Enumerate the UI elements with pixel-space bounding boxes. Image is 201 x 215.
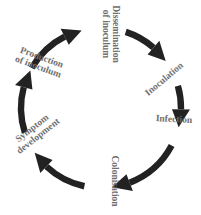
arrow-head-icon [15,70,32,89]
stage-label-colonisation: Colonisation [110,148,120,214]
cycle-arrow-infection-to-colonisation [112,144,174,191]
arrow-shaft [129,144,175,186]
arrow-shaft [125,29,156,50]
arrow-shaft [175,85,184,109]
cycle-arrow-colonisation-to-symptom [35,153,85,190]
arrow-shaft [44,164,85,189]
stage-label-dissemination-of-inoculum: Dissemination of inoculum [101,0,121,69]
cycle-arrow-dissemination-to-inoculation [125,29,166,61]
stage-label-line: Colonisation [110,148,120,214]
stage-label-line: Dissemination [111,0,121,69]
stage-label-line: of inoculum [101,0,111,69]
